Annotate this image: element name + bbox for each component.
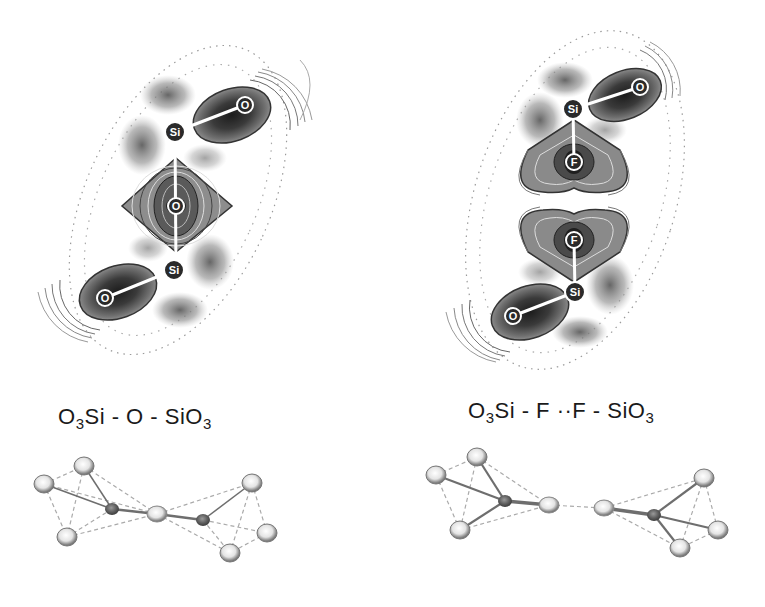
bond [436,475,505,501]
formula-right: O3Si - F ··F - SiO3 [468,398,654,426]
contour-map-left: OSiOSiO [25,12,331,389]
oxygen-atom [257,524,277,542]
ball-model-right [426,448,728,557]
dashed-edge [157,483,252,514]
fluorine-atom [594,500,614,516]
atom-label: O [509,310,518,322]
dashed-edge [477,457,549,505]
bridging-oxygen-atom [147,506,167,522]
atom-marker-silicon-top: Si [165,122,185,142]
oxygen-atom [74,457,94,475]
dashed-edge [67,466,84,537]
ball-model-left [34,457,277,562]
oxygen-atom [242,474,262,492]
atom-marker-silicon-bottom: Si [164,260,184,280]
atom-marker-terminal-oxygen-top: O [632,79,648,95]
formula-part: Si - F ··F - Si [494,398,627,423]
dashed-edge [460,457,477,530]
atom-label: Si [570,286,580,298]
formula-subscript: 3 [645,409,654,426]
density-blob [118,115,166,175]
silicon-atom [647,509,661,521]
oxygen-atom [450,521,470,539]
atom-marker-fluorine-bottom: F [566,232,582,248]
oxygen-atom [220,544,240,562]
dashed-edge [680,478,704,548]
atom-label: F [571,156,578,168]
atom-marker-fluorine-top: F [566,154,582,170]
silicon-atom [105,503,119,515]
oxygen-atom [57,528,77,546]
atom-marker-silicon-bottom: Si [565,282,585,302]
atom-marker-silicon-top: Si [563,99,583,119]
oxygen-atom [694,469,714,487]
dashed-edge [604,478,704,508]
formula-left: O3Si - O - SiO3 [58,404,212,432]
dashed-edge [460,505,549,530]
oxygen-atom [426,466,446,484]
oxygen-atom [670,539,690,557]
density-blob [152,292,208,328]
figure-canvas: OSiOSiO [0,0,765,607]
atom-label: O [101,292,110,304]
fluorine-atom [539,497,559,513]
formula-part: O [468,398,486,423]
silicon-atom [196,514,210,526]
formula-part: Si - O - Si [84,404,185,429]
atom-label: Si [169,264,179,276]
dashed-edge [84,466,157,514]
density-blob [537,62,593,98]
atom-label: O [636,81,645,93]
oxygen-atom [467,448,487,466]
formula-subscript: 3 [203,415,212,432]
atom-marker-terminal-oxygen-top: O [237,97,253,113]
silicon-atom [498,495,512,507]
atom-label: O [241,99,250,111]
atom-label: Si [170,126,180,138]
density-blob [140,75,196,115]
bond [44,484,112,509]
atom-label: Si [568,103,578,115]
dashed-edge [44,484,157,514]
atom-marker-terminal-oxygen-bottom: O [505,308,521,324]
oxygen-atom [708,521,728,539]
formula-part: O [628,398,646,423]
contour-map-right: OSiFFSiO [426,3,724,398]
atom-label: F [571,234,578,246]
atom-label: O [172,200,181,212]
atom-marker-terminal-oxygen-bottom: O [97,290,113,306]
dashed-edge [67,514,157,537]
dashed-edge [230,483,252,553]
formula-part: O [58,404,76,429]
oxygen-atom [34,475,54,493]
density-blob [186,234,234,290]
formula-part: O [185,404,203,429]
atom-marker-bridging-oxygen: O [168,198,184,214]
